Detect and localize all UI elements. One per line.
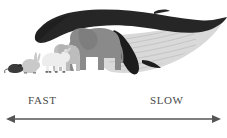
- animals-svg: [0, 0, 227, 138]
- animal-silhouette-scene: [0, 0, 227, 138]
- axis-label-fast: FAST: [28, 94, 56, 106]
- mouse-silhouette: [5, 64, 24, 73]
- whale-dorsal-fin: [154, 10, 170, 14]
- axis-label-row: FAST SLOW: [0, 94, 227, 112]
- fast-slow-axis: [6, 115, 221, 123]
- axis-right-arrowhead: [212, 115, 221, 123]
- mouse-ear: [18, 64, 22, 67]
- axis-label-slow: SLOW: [150, 94, 184, 106]
- body-size-metabolic-rate-figure: FAST SLOW: [0, 0, 227, 138]
- rabbit-ears: [34, 52, 40, 61]
- mouse-tail: [5, 69, 8, 73]
- axis-left-arrowhead: [6, 115, 15, 123]
